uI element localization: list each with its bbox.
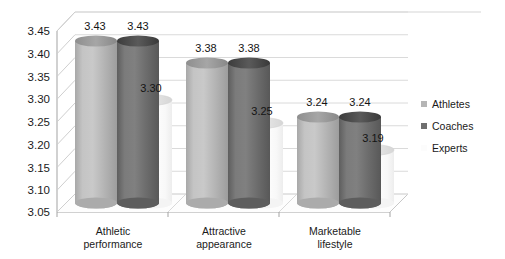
bar-coaches-1[interactable] [117, 36, 159, 209]
bar-athletes-1[interactable] [75, 36, 117, 209]
legend-swatch-experts [421, 145, 427, 151]
bar-group-athletic-performance: 3.43 3.43 3.30 [75, 20, 172, 209]
data-label: 3.19 [362, 132, 383, 144]
legend-label-athletes: Athletes [432, 98, 470, 110]
data-label: 3.30 [140, 82, 161, 94]
bar-athletes-3[interactable] [297, 112, 339, 209]
category-label-line1: Athletic [96, 225, 130, 237]
bar-coaches-3[interactable] [339, 112, 381, 209]
bar-group-attractive-appearance: 3.38 3.38 3.25 [186, 42, 283, 209]
y-tick-label: 3.25 [28, 116, 50, 128]
data-label: 3.38 [195, 42, 216, 54]
legend-label-coaches: Coaches [432, 120, 473, 132]
data-label: 3.24 [349, 96, 370, 108]
x-axis-category-labels: Athletic performance Attractive appearan… [84, 225, 362, 250]
data-label: 3.43 [127, 20, 148, 32]
bar-athletes-2[interactable] [186, 58, 228, 209]
legend-label-experts: Experts [432, 142, 468, 154]
tick-connectors [57, 12, 75, 212]
y-tick-label: 3.05 [28, 206, 50, 218]
data-label: 3.24 [306, 96, 327, 108]
y-tick-label: 3.15 [28, 162, 50, 174]
data-label: 3.43 [84, 20, 105, 32]
category-label-line2: performance [84, 238, 143, 250]
category-label-line2: appearance [196, 238, 252, 250]
category-label-line1: Marketable [309, 225, 361, 237]
y-tick-label: 3.35 [28, 71, 50, 83]
x-axis-ticks [57, 212, 390, 217]
chart-3d-cylinder-bar: 3.45 3.40 3.35 3.30 3.25 3.20 3.15 3.10 … [0, 0, 505, 259]
category-label-line1: Attractive [202, 225, 246, 237]
bar-coaches-2[interactable] [228, 58, 270, 209]
y-axis-tick-labels: 3.45 3.40 3.35 3.30 3.25 3.20 3.15 3.10 … [28, 25, 50, 218]
y-tick-label: 3.30 [28, 93, 50, 105]
data-label: 3.38 [238, 42, 259, 54]
category-label-line2: lifestyle [317, 238, 352, 250]
y-tick-label: 3.20 [28, 139, 50, 151]
y-tick-label: 3.10 [28, 184, 50, 196]
y-tick-label: 3.45 [28, 25, 50, 37]
data-label: 3.25 [251, 105, 272, 117]
legend-swatch-coaches [421, 123, 427, 129]
legend-swatch-athletes [421, 101, 427, 107]
chart-svg: 3.45 3.40 3.35 3.30 3.25 3.20 3.15 3.10 … [0, 0, 505, 259]
y-tick-label: 3.40 [28, 48, 50, 60]
